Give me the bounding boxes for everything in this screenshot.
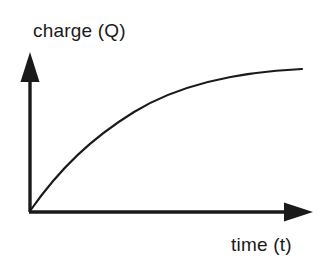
x-axis-label: time (t) bbox=[231, 234, 292, 256]
y-axis-label: charge (Q) bbox=[33, 20, 126, 42]
